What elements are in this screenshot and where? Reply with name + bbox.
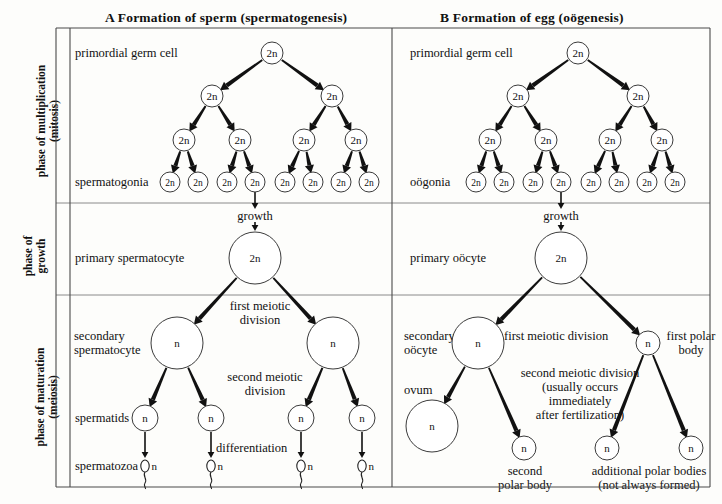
sperm-spermatogonium-0-label: 2n	[165, 178, 175, 188]
additional-polar-body-0-label: n	[604, 442, 610, 454]
primary-oocyte-label: 2n	[556, 252, 568, 264]
arrowhead	[558, 225, 565, 231]
egg-primordial-germ-cell: 2n	[567, 42, 589, 64]
sperm-spermatogonium-7: 2n	[359, 172, 379, 192]
egg-oogonium-3: 2n	[551, 172, 571, 192]
spermatozoon-2: n	[297, 460, 314, 489]
sperm-mitosis-l2-1: 2n	[321, 85, 343, 107]
spermatozoon-head-1	[207, 460, 215, 472]
first-meiotic-arrow-left	[198, 277, 238, 320]
arrowhead	[208, 452, 215, 458]
sperm-spermatogonium-4-label: 2n	[280, 178, 290, 188]
diagram-page: A Formation of sperm (spermatogenesis) B…	[0, 0, 722, 504]
lineage-arrow	[281, 59, 318, 87]
lineage-arrow	[306, 152, 312, 166]
primary-spermatocyte-label: 2n	[250, 252, 262, 264]
lineage-arrow	[531, 59, 568, 87]
arrowhead	[252, 225, 259, 231]
egg-oogonium-5: 2n	[609, 172, 629, 192]
egg-oogonium-0-label: 2n	[471, 178, 481, 188]
sperm-spermatogonium-4: 2n	[275, 172, 295, 192]
egg-oogonium-6: 2n	[637, 172, 657, 192]
additional-polar-body-arrow-1	[652, 355, 686, 432]
sperm-mitosis-l2-0-label: 2n	[207, 90, 219, 102]
first-polar-body-label: n	[645, 337, 651, 349]
sperm-mitosis-l3-3-label: 2n	[351, 134, 363, 146]
sperm-spermatogonium-5: 2n	[303, 172, 323, 192]
secondary-oocyte-label: n	[475, 337, 481, 349]
egg-mitosis-l2-0: 2n	[507, 85, 529, 107]
spermatid-1-label: n	[208, 412, 214, 424]
sperm-mitosis-l3-2-label: 2n	[299, 134, 311, 146]
egg-mitosis-l3-1: 2n	[535, 129, 557, 151]
lineage-arrow	[337, 106, 349, 125]
second-polar-body-label: n	[521, 442, 527, 454]
lineage-arrow	[596, 151, 606, 168]
egg-oogonium-2-label: 2n	[528, 178, 538, 188]
egg-mitosis-l3-0-label: 2n	[485, 134, 497, 146]
sperm-spermatogonium-1-label: 2n	[193, 178, 203, 188]
sperm-spermatogonium-3: 2n	[245, 172, 265, 192]
sperm-mitosis-l3-1-label: 2n	[235, 134, 247, 146]
spermatid-3-label: n	[359, 412, 365, 424]
egg-oogonium-5-label: 2n	[614, 178, 624, 188]
egg-mitosis-l3-0: 2n	[479, 129, 501, 151]
spermatozoon-head-0	[141, 460, 149, 472]
first-meiotic-arrow-polar-body	[580, 276, 636, 331]
lineage-arrow	[345, 151, 353, 167]
secondary-oocyte: n	[452, 317, 504, 369]
sperm-spermatogonium-1: 2n	[188, 172, 208, 192]
lineage-arrow	[587, 59, 624, 87]
secondary-spermatocyte-1-label: n	[330, 337, 336, 349]
egg-oogonium-3-label: 2n	[556, 178, 566, 188]
sperm-mitosis-l3-0-label: 2n	[179, 134, 191, 146]
second-meiotic-arrow-polar-body	[488, 367, 518, 431]
egg-mitosis-l2-1: 2n	[627, 85, 649, 107]
egg-oogonium-0: 2n	[466, 172, 486, 192]
lineage-arrow	[618, 106, 633, 126]
sperm-primordial-germ-cell-label: 2n	[267, 47, 279, 59]
sperm-mitosis-l3-3: 2n	[345, 129, 367, 151]
sperm-mitosis-l3-2: 2n	[293, 129, 315, 151]
arrowhead	[558, 203, 565, 209]
egg-mitosis-l3-2-label: 2n	[605, 134, 617, 146]
spermatid-2-label: n	[298, 412, 304, 424]
first-polar-body: n	[636, 331, 660, 355]
egg-mitosis-l3-3-label: 2n	[657, 134, 669, 146]
sperm-mitosis-l3-1: 2n	[229, 129, 251, 151]
lineage-edges	[142, 59, 688, 458]
sperm-mitosis-l3-0: 2n	[173, 129, 195, 151]
egg-oogonium-6-label: 2n	[642, 178, 652, 188]
egg-mitosis-l3-2: 2n	[599, 129, 621, 151]
primary-spermatocyte: 2n	[229, 232, 281, 284]
arrowhead	[298, 452, 305, 458]
secondary-spermatocyte-1: n	[307, 317, 359, 369]
lineage-arrow	[524, 106, 539, 126]
spermatozoon-head-3	[358, 460, 366, 472]
spermatid-3: n	[349, 405, 375, 431]
lineage-arrow	[643, 106, 655, 125]
sperm-mitosis-l2-0: 2n	[201, 85, 223, 107]
spermatozoon-ploidy-1: n	[218, 460, 224, 472]
spermatozoon-0: n	[141, 460, 158, 489]
lineage-arrow	[493, 151, 501, 166]
sperm-primordial-germ-cell: 2n	[261, 42, 283, 64]
lineage-arrow	[498, 106, 513, 126]
arrowhead	[252, 203, 259, 209]
primary-oocyte: 2n	[535, 232, 587, 284]
spermatozoon-ploidy-2: n	[308, 460, 314, 472]
additional-polar-body-1-label: n	[688, 442, 694, 454]
sperm-spermatogonium-7-label: 2n	[364, 178, 374, 188]
sperm-spermatogonium-0: 2n	[160, 172, 180, 192]
spermatozoon-1: n	[207, 460, 224, 489]
ovum-label: n	[429, 420, 435, 432]
second-meiotic-arrow-3	[342, 368, 357, 400]
spermatid-0-label: n	[142, 412, 148, 424]
second-meiotic-arrow-ovum	[446, 366, 466, 398]
second-polar-body: n	[512, 436, 536, 460]
egg-primordial-germ-cell-label: 2n	[573, 47, 585, 59]
second-meiotic-arrow-2	[307, 368, 323, 401]
arrowhead	[142, 452, 149, 458]
spermatozoon-head-2	[297, 460, 305, 472]
lineage-arrow	[665, 151, 672, 166]
